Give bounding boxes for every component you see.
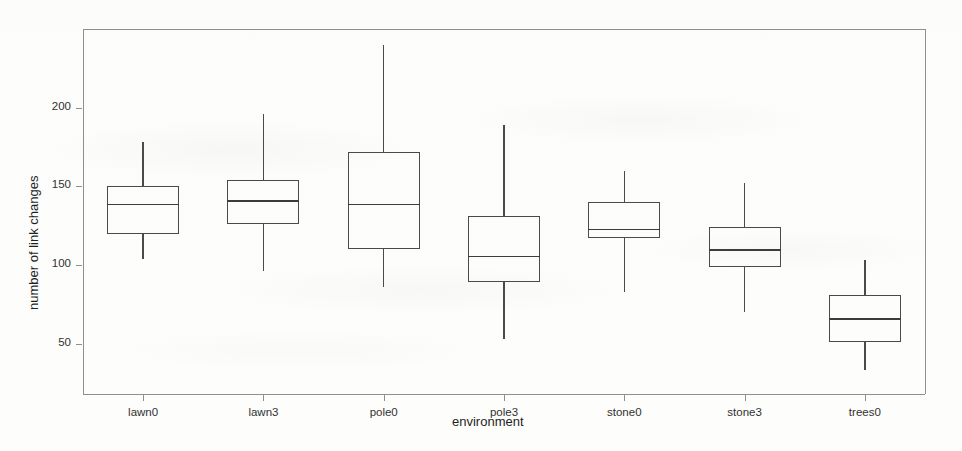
x-tick-mark <box>865 395 866 401</box>
y-tick-mark <box>76 265 82 266</box>
x-tick-mark <box>504 395 505 401</box>
x-tick-mark <box>384 395 385 401</box>
y-tick-label: 200 <box>31 100 71 112</box>
y-axis-title: number of link changes <box>26 176 41 310</box>
x-tick-mark <box>143 395 144 401</box>
y-tick-mark <box>76 108 82 109</box>
x-tick-label-lawn0: lawn0 <box>93 406 193 418</box>
x-tick-label-stone0: stone0 <box>574 406 674 418</box>
x-tick-label-pole0: pole0 <box>334 406 434 418</box>
x-tick-label-trees0: trees0 <box>815 406 915 418</box>
y-tick-mark <box>76 344 82 345</box>
boxplot-figure: 50100150200number of link changesenviron… <box>0 0 962 451</box>
x-tick-mark <box>624 395 625 401</box>
x-tick-label-lawn3: lawn3 <box>213 406 313 418</box>
x-tick-label-stone3: stone3 <box>695 406 795 418</box>
plot-area <box>83 29 925 394</box>
y-tick-mark <box>76 186 82 187</box>
x-tick-mark <box>263 395 264 401</box>
x-tick-mark <box>745 395 746 401</box>
plot-frame-right <box>925 29 926 394</box>
y-tick-label: 50 <box>31 336 71 348</box>
x-tick-label-pole3: pole3 <box>454 406 554 418</box>
